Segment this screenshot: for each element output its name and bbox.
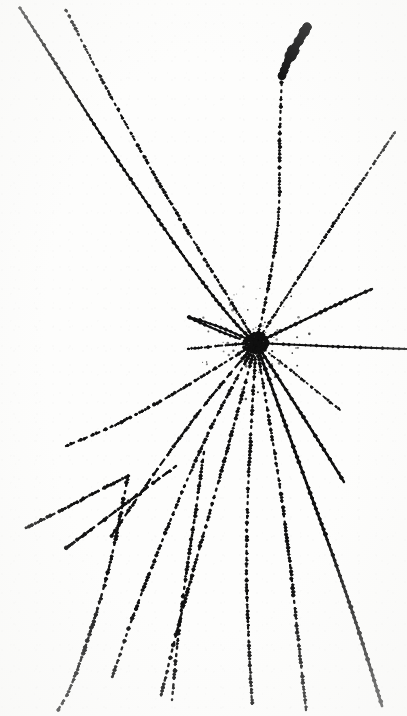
bubble-grain (374, 684, 377, 687)
bubble-grain (328, 543, 331, 546)
bubble-grain (320, 243, 322, 245)
bubble-grain (288, 343, 291, 346)
bubble-grain (194, 511, 197, 514)
bubble-grain (280, 81, 283, 84)
bubble-grain (295, 624, 298, 627)
bubble-grain (275, 462, 278, 465)
bubble-grain (354, 191, 356, 193)
bubble-grain (218, 480, 220, 482)
bubble-grain (404, 348, 406, 350)
bubble-grain (180, 388, 182, 390)
bubble-grain (188, 552, 191, 555)
bubble-grain (317, 439, 320, 442)
bubble-grain (241, 357, 244, 360)
bubble-grain (288, 393, 290, 395)
bubble-grain (163, 531, 166, 534)
bubble-grain (120, 421, 123, 424)
bubble-grain (281, 302, 283, 304)
bubble-grain (106, 484, 109, 487)
bubble-grain (152, 564, 154, 566)
bubble-grain (308, 425, 310, 427)
bubble-grain (279, 329, 282, 332)
bubble-grain (183, 223, 185, 225)
bubble-grain (277, 404, 280, 407)
bubble-grain (316, 512, 319, 515)
bubble-grain (219, 330, 222, 333)
bubble-grain (302, 679, 304, 681)
bubble-grain (308, 259, 310, 261)
bubble-grain (361, 180, 363, 182)
bubble-grain (248, 658, 250, 660)
bubble-grain (364, 653, 367, 656)
bubble-grain (139, 493, 141, 495)
bubble-grain (194, 379, 197, 382)
bubble-grain (239, 335, 242, 338)
bubble-grain (279, 483, 281, 485)
bubble-grain (237, 407, 239, 409)
bubble-grain (286, 546, 289, 549)
bubble-grain (169, 470, 172, 473)
bubble-grain (245, 573, 247, 575)
bubble-grain (232, 344, 234, 346)
bubble-grain (19, 7, 21, 9)
bubble-grain (267, 377, 271, 381)
bubble-grain (168, 395, 170, 397)
bubble-grain (246, 552, 248, 554)
bubble-grain (75, 95, 78, 98)
bubble-grain (91, 493, 94, 496)
bubble-grain (77, 33, 79, 35)
bubble-grain (278, 142, 281, 145)
bubble-grain (390, 138, 392, 140)
bubble-grain (290, 325, 293, 328)
bubble-grain (335, 220, 337, 222)
bubble-grain (141, 490, 143, 492)
bubble-grain (201, 535, 204, 538)
bubble-grain (324, 236, 327, 239)
bubble-grain (112, 482, 115, 485)
bubble-grain (198, 544, 202, 548)
bubble-grain (189, 424, 191, 426)
bubble-grain (214, 328, 216, 330)
bubble-grain (160, 223, 163, 226)
bubble-grain (264, 298, 266, 300)
bubble-grain (201, 467, 203, 469)
bubble-grain (88, 633, 92, 637)
bubble-grain (289, 570, 292, 573)
bubble-grain (271, 343, 273, 345)
bubble-grain (57, 708, 60, 711)
bubble-grain (343, 208, 345, 210)
bubble-grain (99, 597, 102, 600)
bubble-grain (118, 518, 120, 520)
bubble-grain (61, 703, 63, 705)
bubble-grain (303, 268, 305, 270)
bubble-grain (378, 154, 380, 156)
bubble-grain (335, 406, 337, 408)
bubble-grain (246, 515, 248, 517)
bubble-grain (81, 656, 83, 658)
bubble-grain (51, 58, 54, 61)
bubble-grain (91, 61, 93, 63)
bubble-grain (186, 561, 189, 564)
bubble-grain (274, 332, 278, 336)
bubble-grain (271, 439, 274, 442)
bubble-grain (224, 332, 227, 335)
bubble-grain (206, 264, 209, 267)
bubble-chamber-photograph (0, 0, 407, 716)
bubble-grain (209, 326, 211, 328)
bubble-grain (208, 512, 210, 514)
bubble-grain (147, 204, 150, 207)
bubble-grain (247, 463, 250, 466)
bubble-grain (208, 290, 210, 292)
bubble-grain (151, 171, 154, 174)
bubble-grain (347, 600, 350, 603)
bubble-grain (101, 136, 104, 139)
bubble-grain (139, 411, 141, 413)
bubble-grain (110, 558, 112, 560)
bubble-grain (287, 550, 290, 553)
bubble-grain (248, 450, 251, 453)
bubble-grain (247, 624, 249, 626)
bubble-grain (129, 177, 132, 180)
bubble-grain (193, 463, 195, 465)
bubble-grain (347, 203, 349, 205)
bubble-grain (184, 429, 187, 432)
